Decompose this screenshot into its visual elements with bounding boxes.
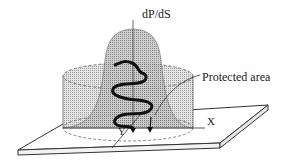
probability-density-diagram: dP/dS Protected area X Y (0, 0, 285, 165)
x-axis-label: X (207, 116, 215, 127)
y-axis-label: Y (118, 127, 125, 137)
vertical-axis-label: dP/dS (142, 8, 171, 20)
protected-area-label: Protected area (202, 71, 270, 83)
